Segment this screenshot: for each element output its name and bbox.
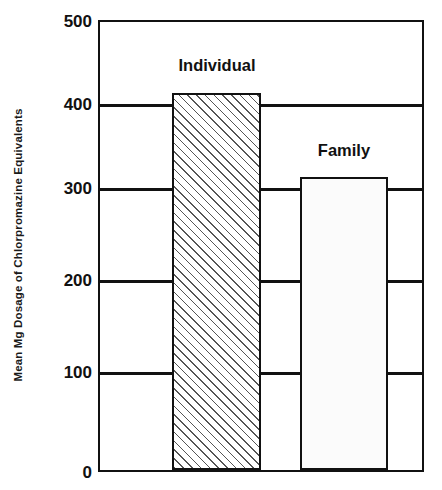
y-tick-200: 200 (36, 272, 92, 289)
y-axis-title-text: Mean Mg Dosage of Chlorpromazine Equival… (12, 108, 24, 381)
y-tick-400: 400 (36, 96, 92, 113)
chart-figure: Mean Mg Dosage of Chlorpromazine Equival… (0, 0, 442, 490)
y-tick-100: 100 (36, 364, 92, 381)
y-tick-300: 300 (36, 180, 92, 197)
y-tick-0: 0 (36, 464, 92, 481)
bar-individual[interactable] (172, 93, 261, 470)
gridline-400 (100, 104, 422, 107)
bar-label-individual: Individual (162, 57, 272, 74)
y-tick-500: 500 (36, 13, 92, 30)
y-axis-title: Mean Mg Dosage of Chlorpromazine Equival… (0, 0, 36, 490)
bar-family[interactable] (300, 177, 388, 470)
y-axis-tick-labels: 500 400 300 200 100 0 (36, 0, 92, 490)
plot-area: Individual Family (98, 20, 424, 472)
bar-label-family: Family (292, 142, 396, 159)
